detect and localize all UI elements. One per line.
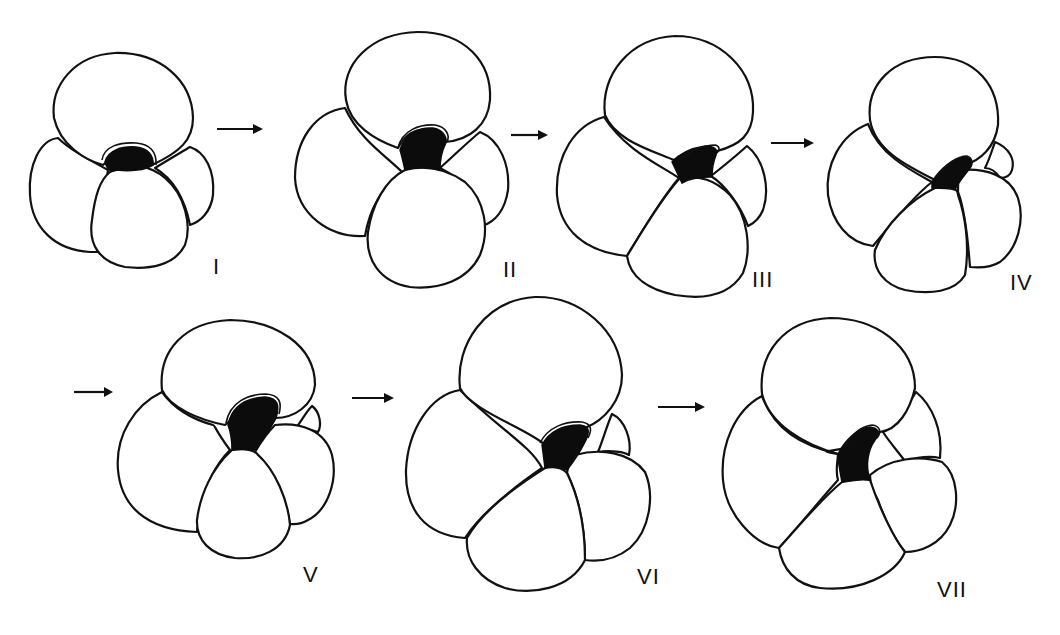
chamber — [598, 414, 630, 455]
stage-label-IV: IV — [1010, 270, 1033, 295]
stage-label-VI: VI — [637, 564, 660, 589]
specimen-V: V — [74, 320, 334, 587]
evolution-sequence-diagram: I II III IV — [0, 0, 1060, 635]
stage-label-III: III — [752, 267, 773, 292]
arrow-III-IV — [771, 138, 814, 148]
arrow-IV-V — [74, 387, 113, 397]
right-arrow-icon — [384, 393, 394, 403]
arrow-I-II — [217, 124, 263, 134]
specimen-II: II — [295, 32, 517, 288]
right-arrow-icon — [804, 138, 814, 148]
right-arrow-icon — [695, 402, 705, 412]
stage-label-V: V — [303, 562, 319, 587]
right-arrow-icon — [538, 130, 548, 140]
figure-canvas: I II III IV — [0, 0, 1060, 635]
specimen-VI: VI — [352, 297, 660, 591]
stage-label-VII: VII — [937, 577, 967, 602]
stage-label-I: I — [213, 254, 220, 279]
chamber — [604, 36, 753, 160]
specimen-I: I — [30, 53, 220, 279]
specimen-IV: IV — [828, 57, 1033, 295]
right-arrow-icon — [104, 387, 113, 397]
specimen-VII: VII — [658, 318, 967, 602]
arrow-V-VI — [352, 393, 394, 403]
right-arrow-icon — [253, 124, 263, 134]
specimen-III: III — [557, 36, 773, 297]
chamber — [368, 168, 485, 288]
arrow-II-III — [511, 130, 548, 140]
stage-label-II: II — [503, 257, 517, 282]
arrow-VI-VII — [658, 402, 705, 412]
